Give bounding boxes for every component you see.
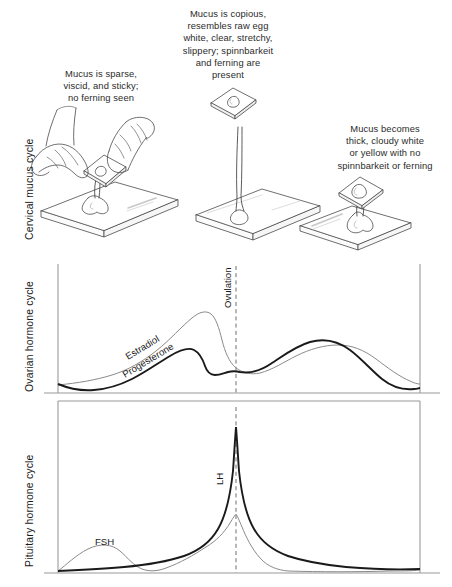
caption-line: and ferning are	[148, 57, 308, 69]
progesterone-curve	[58, 340, 420, 390]
lh-label: LH	[214, 473, 225, 485]
ovarian-hormone-chart: Ovarian hormone cycle Estradiol Progeste…	[0, 262, 452, 399]
caption-line: or yellow with no	[318, 147, 452, 159]
caption-line: Mucus is copious,	[148, 8, 308, 20]
caption-line: Mucus becomes	[318, 123, 452, 135]
fsh-label: FSH	[95, 536, 114, 547]
caption-line: slippery; spinnbarkeit	[148, 45, 308, 57]
mucus-caption-ovulatory: Mucus is copious, resembles raw egg whit…	[148, 8, 308, 81]
illustration-sticky-mucus	[32, 106, 178, 237]
row-label-cervical-mucus: Cervical mucus cycle	[24, 138, 35, 240]
estradiol-curve	[58, 312, 420, 385]
caption-line: thick, cloudy white	[318, 135, 452, 147]
lh-curve	[58, 427, 420, 571]
caption-line: spinnbarkeit or ferning	[318, 160, 452, 172]
row-label-pituitary: Pituitary hormone cycle	[24, 454, 35, 567]
caption-line: no ferning seen	[30, 92, 172, 104]
illustration-spinnbarkeit	[196, 88, 320, 240]
mucus-caption-luteal: Mucus becomes thick, cloudy white or yel…	[318, 123, 452, 172]
caption-line: present	[148, 69, 308, 81]
row-label-ovarian: Ovarian hormone cycle	[24, 281, 35, 392]
cervical-mucus-row: Cervical mucus cycle Mucus is sparse, vi…	[0, 0, 452, 262]
ovulation-label: Ovulation	[222, 267, 233, 308]
pituitary-hormone-chart: Pituitary hormone cycle FSH LH	[0, 399, 452, 587]
caption-line: white, clear, stretchy,	[148, 32, 308, 44]
pituitary-chart-svg: FSH LH	[0, 399, 452, 587]
ovarian-chart-svg: Estradiol Progesterone Ovulation	[0, 262, 452, 399]
caption-line: viscid, and sticky;	[30, 80, 172, 92]
caption-line: resembles raw egg	[148, 20, 308, 32]
